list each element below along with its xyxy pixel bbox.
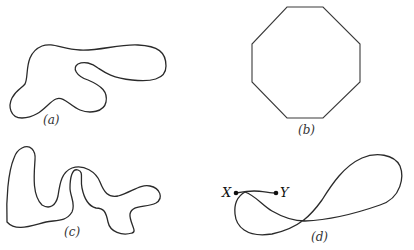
panel-label-c: (c) — [64, 226, 80, 238]
point-y-label: Y — [280, 186, 289, 199]
figure-canvas — [0, 0, 414, 250]
panel-label-b: (b) — [298, 124, 315, 136]
panel-label-d: (d) — [311, 231, 328, 243]
curve-a — [10, 45, 166, 118]
curve-c — [7, 147, 161, 234]
point-y-dot — [274, 191, 279, 196]
octagon-b — [252, 7, 360, 118]
curve-d — [236, 191, 276, 193]
point-x-dot — [234, 191, 239, 196]
point-x-label: X — [222, 186, 231, 199]
panel-label-a: (a) — [43, 114, 60, 126]
curve-d-loop — [235, 155, 402, 235]
